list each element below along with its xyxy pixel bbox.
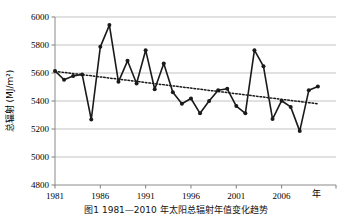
data-point-marker xyxy=(307,88,311,92)
y-tick-label: 5600 xyxy=(31,68,50,78)
y-axis-title-text: 总辐射 (MJ/m²) xyxy=(4,70,15,133)
y-tick-label: 5400 xyxy=(31,96,50,106)
data-point-marker xyxy=(126,59,130,63)
y-tick-label: 5000 xyxy=(31,152,50,162)
y-tick-label: 5800 xyxy=(31,40,50,50)
x-tick-label: 1986 xyxy=(91,191,110,201)
data-point-marker xyxy=(180,102,184,106)
y-tick-label: 4800 xyxy=(31,180,50,190)
x-axis-unit-label: 年 xyxy=(312,188,321,199)
figure-container: 4800500052005400560058006000 19811986199… xyxy=(0,0,352,221)
data-point-marker xyxy=(316,85,320,89)
data-point-marker xyxy=(207,99,211,103)
figure-caption: 图1 1981—2010 年太阳总辐射年值变化趋势 xyxy=(0,203,352,216)
x-tick-label: 2001 xyxy=(227,191,245,201)
data-point-marker xyxy=(116,80,120,84)
x-tick-label: 1991 xyxy=(137,191,155,201)
y-tick-label: 6000 xyxy=(31,12,50,22)
data-point-marker xyxy=(89,117,93,121)
x-tick-label: 1996 xyxy=(182,191,201,201)
data-point-marker xyxy=(225,87,229,91)
data-point-marker xyxy=(153,87,157,91)
data-point-marker xyxy=(107,23,111,27)
y-axis-title: 总辐射 (MJ/m²) xyxy=(4,70,15,133)
data-point-marker xyxy=(261,64,265,68)
chart-background xyxy=(0,0,352,200)
data-point-marker xyxy=(71,74,75,78)
data-point-marker xyxy=(198,111,202,115)
data-point-marker xyxy=(189,96,193,100)
x-tick-label: 2006 xyxy=(273,191,292,201)
data-point-marker xyxy=(289,105,293,109)
data-point-marker xyxy=(234,104,238,108)
x-tick-label: 1981 xyxy=(46,191,64,201)
data-point-marker xyxy=(243,111,247,115)
data-point-marker xyxy=(271,117,275,121)
data-point-marker xyxy=(171,90,175,94)
line-chart-svg: 4800500052005400560058006000 19811986199… xyxy=(0,0,352,200)
data-point-marker xyxy=(298,129,302,133)
data-point-marker xyxy=(252,48,256,52)
y-tick-label: 5200 xyxy=(31,124,50,134)
data-point-marker xyxy=(162,61,166,65)
data-point-marker xyxy=(144,48,148,52)
data-point-marker xyxy=(98,45,102,49)
data-point-marker xyxy=(62,78,66,82)
chart-plot-area: 4800500052005400560058006000 19811986199… xyxy=(0,0,352,200)
